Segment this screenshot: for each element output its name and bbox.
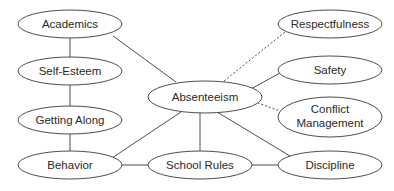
node-label: Absenteeism	[172, 91, 238, 103]
node-label: School Rules	[166, 159, 234, 171]
node-safety: Safety	[278, 56, 382, 84]
node-self-esteem: Self-Esteem	[18, 57, 122, 85]
node-absenteeism: Absenteeism	[148, 81, 262, 113]
node-label-line2: Management	[296, 117, 364, 129]
diagram-svg: Academics Self-Esteem Getting Along Beha…	[0, 0, 394, 191]
node-label-line1: Conflict	[311, 103, 350, 115]
node-label: Getting Along	[35, 114, 104, 126]
node-label: Self-Esteem	[39, 65, 102, 77]
edge-absenteeism-behavior	[112, 110, 184, 158]
edge-absenteeism-respectfulness	[224, 32, 285, 81]
node-conflict-management: Conflict Management	[278, 97, 382, 137]
node-behavior: Behavior	[18, 151, 122, 179]
node-academics: Academics	[18, 10, 122, 38]
node-discipline: Discipline	[278, 151, 382, 179]
node-respectfulness: Respectfulness	[278, 10, 382, 38]
node-getting-along: Getting Along	[18, 106, 122, 134]
edge-absenteeism-safety	[249, 73, 280, 90]
edge-academics-absenteeism	[113, 36, 176, 82]
concept-map-diagram: Academics Self-Esteem Getting Along Beha…	[0, 0, 394, 191]
node-label: Discipline	[305, 159, 354, 171]
node-school-rules: School Rules	[148, 151, 252, 179]
node-label: Respectfulness	[291, 18, 370, 30]
node-label: Behavior	[47, 159, 93, 171]
node-label: Safety	[314, 64, 347, 76]
node-label: Academics	[42, 18, 98, 30]
